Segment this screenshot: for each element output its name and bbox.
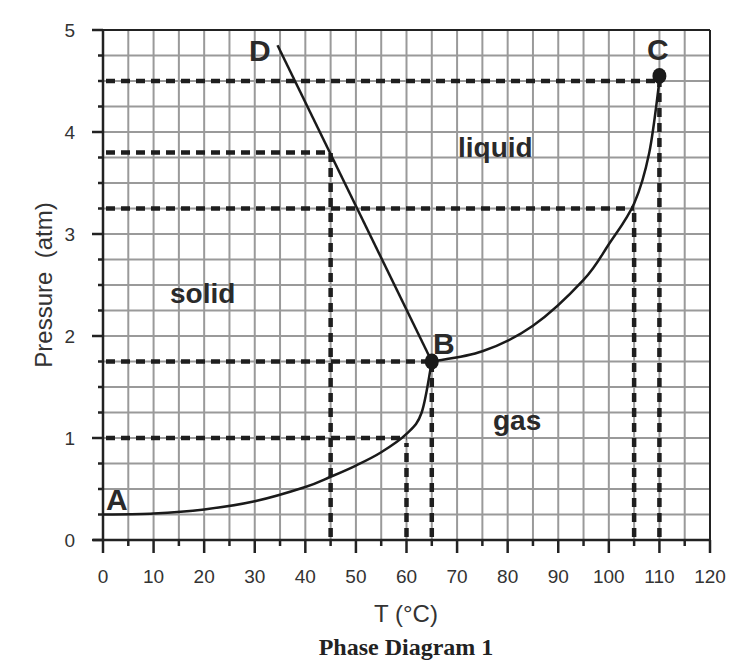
region-label-gas: gas (493, 405, 541, 436)
phase-boundary-line (432, 81, 660, 362)
x-tick-label: 90 (548, 566, 569, 587)
x-tick-label: 100 (593, 566, 625, 587)
point-label-b: B (433, 327, 455, 360)
phase-boundary-line (278, 45, 432, 361)
x-tick-label: 70 (447, 566, 468, 587)
x-tick-label: 10 (143, 566, 164, 587)
x-tick-label: 0 (98, 566, 109, 587)
x-tick-label: 80 (497, 566, 518, 587)
y-tick-label: 2 (64, 326, 75, 347)
y-tick-label: 3 (64, 224, 75, 245)
region-label-solid: solid (170, 278, 235, 309)
point-markers (425, 68, 667, 370)
x-tick-label: 50 (345, 566, 366, 587)
y-axis-label: Pressure (atm) (30, 202, 57, 367)
x-tick-label: 60 (396, 566, 417, 587)
region-label-liquid: liquid (458, 132, 533, 163)
y-tick-label: 5 (64, 20, 75, 41)
point-label-a: A (106, 483, 128, 516)
point-label-c: C (647, 33, 669, 66)
y-tick-label: 0 (64, 530, 75, 551)
x-tick-label: 40 (295, 566, 316, 587)
x-tick-label: 110 (644, 566, 674, 587)
y-tick-label: 1 (64, 428, 75, 449)
x-tick-label: 30 (244, 566, 265, 587)
x-tick-label: 120 (694, 566, 726, 587)
dashed-reference-lines (106, 81, 659, 537)
x-tick-label: 20 (194, 566, 215, 587)
chart-title: Phase Diagram 1 (319, 634, 494, 660)
point-label-d: D (249, 34, 271, 67)
x-axis-label: T (°C) (374, 600, 438, 627)
y-tick-label: 4 (64, 122, 75, 143)
phase-diagram-chart: 0102030405060708090100110120 012345 soli… (0, 0, 737, 672)
y-tick-labels: 012345 (64, 20, 75, 551)
x-tick-labels: 0102030405060708090100110120 (98, 566, 726, 587)
point-marker-c (652, 68, 666, 84)
